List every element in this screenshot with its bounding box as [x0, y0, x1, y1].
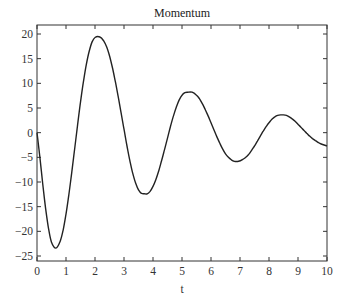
y-tick-label: −15 — [15, 201, 33, 213]
x-tick-label: 8 — [266, 265, 272, 277]
y-tick-label: −20 — [15, 225, 33, 237]
plot-area-frame — [37, 25, 327, 261]
x-tick-label: 7 — [237, 265, 243, 277]
x-tick-label: 0 — [34, 265, 40, 277]
y-tick-label: −25 — [15, 250, 33, 262]
x-tick-label: 5 — [179, 265, 185, 277]
y-tick-label: 15 — [22, 53, 34, 65]
x-tick-label: 2 — [92, 265, 98, 277]
chart-title: Momentum — [154, 6, 211, 20]
x-tick-label: 3 — [121, 265, 127, 277]
x-tick-label: 4 — [150, 265, 156, 277]
x-tick-label: 9 — [295, 265, 301, 277]
y-tick-label: −5 — [21, 151, 33, 163]
axis-tick-labels: 01234567891020151050−5−10−15−20−25 — [15, 28, 333, 277]
x-tick-label: 10 — [321, 265, 333, 277]
y-tick-label: 5 — [27, 102, 33, 114]
momentum-line — [37, 37, 327, 248]
axis-ticks — [37, 25, 327, 261]
x-tick-label: 6 — [208, 265, 214, 277]
y-tick-label: −10 — [15, 176, 33, 188]
y-tick-label: 10 — [22, 77, 34, 89]
y-tick-label: 20 — [22, 28, 34, 40]
momentum-chart: Momentum 01234567891020151050−5−10−15−20… — [0, 0, 352, 303]
x-axis-label: t — [180, 283, 184, 295]
y-tick-label: 0 — [27, 127, 33, 139]
x-tick-label: 1 — [63, 265, 69, 277]
